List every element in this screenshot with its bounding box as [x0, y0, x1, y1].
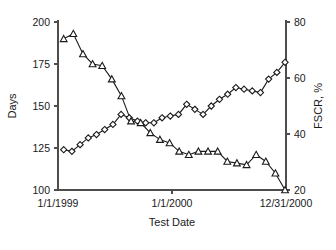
data-point-triangle	[118, 93, 125, 99]
x-axis-tick-label: 1/1/1999	[38, 197, 79, 209]
data-point-triangle	[80, 51, 87, 57]
data-point-triangle	[253, 151, 260, 157]
series-markers	[60, 30, 288, 192]
x-axis-title: Test Date	[149, 216, 195, 228]
data-point-triangle	[262, 158, 269, 164]
left-axis-tick-label: 125	[32, 142, 50, 154]
y-axis-title-right: FSCR, %	[312, 83, 324, 129]
data-point-diamond	[167, 113, 173, 119]
y-axis-title-left: Days	[6, 93, 18, 119]
series-paths	[64, 34, 285, 190]
x-axis-tick-group: 1/1/19991/1/200012/31/2000	[38, 190, 313, 209]
data-point-triangle	[70, 30, 77, 36]
data-point-diamond	[192, 106, 198, 112]
right-axis-tick-label: 40	[294, 128, 306, 140]
data-point-diamond	[93, 131, 99, 137]
right-axis-tick-label: 60	[294, 72, 306, 84]
data-point-diamond	[159, 115, 165, 121]
dual-axis-line-chart: 100125150175200 20406080 1/1/19991/1/200…	[0, 0, 336, 250]
x-axis-tick-label: 1/1/2000	[152, 197, 193, 209]
chart-container: 100125150175200 20406080 1/1/19991/1/200…	[0, 0, 336, 250]
data-point-diamond	[241, 86, 247, 92]
left-axis-tick-group: 100125150175200	[32, 16, 58, 196]
left-axis-tick-label: 200	[32, 16, 50, 28]
data-point-diamond	[249, 88, 255, 94]
right-axis-tick-group: 20406080	[286, 16, 306, 196]
series-line-fscr	[64, 34, 285, 190]
data-point-triangle	[60, 35, 67, 41]
left-axis-tick-label: 100	[32, 184, 50, 196]
left-axis-tick-label: 150	[32, 100, 50, 112]
left-axis-tick-label: 175	[32, 58, 50, 70]
data-point-triangle	[157, 136, 164, 142]
data-point-diamond	[151, 120, 157, 126]
x-axis-tick-label: 12/31/2000	[260, 197, 313, 209]
right-axis-tick-label: 80	[294, 16, 306, 28]
right-axis-tick-label: 20	[294, 184, 306, 196]
data-point-diamond	[102, 126, 108, 132]
data-point-diamond	[257, 89, 263, 95]
data-point-diamond	[61, 147, 67, 153]
